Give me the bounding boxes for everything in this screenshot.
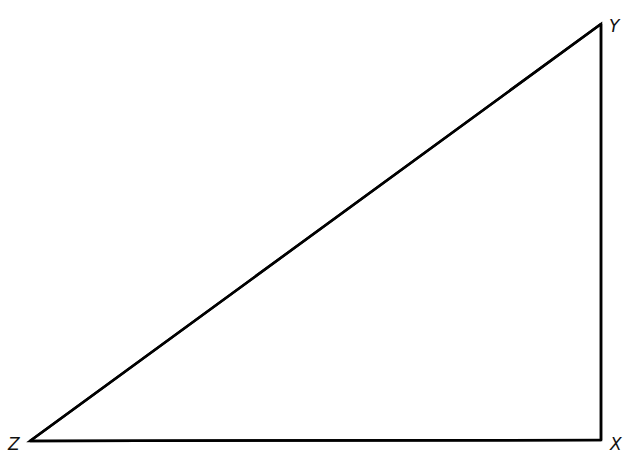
vertex-label-z: Z <box>7 434 20 454</box>
vertex-label-x: X <box>609 434 622 454</box>
triangle-diagram: Y X Z <box>0 0 636 464</box>
vertex-label-y: Y <box>609 16 621 36</box>
side-xz <box>30 440 601 441</box>
side-zy <box>30 24 601 441</box>
